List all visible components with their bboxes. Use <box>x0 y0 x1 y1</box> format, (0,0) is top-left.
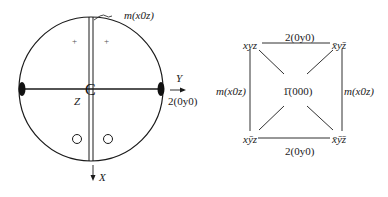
plus-marker: + <box>72 36 77 46</box>
left-edge-label: m(x0z) <box>216 86 246 97</box>
center-inversion-label: 1̄(000) <box>283 86 312 97</box>
mirror-plane-label: m(x0z) <box>124 10 154 21</box>
diag-br <box>307 106 333 130</box>
twofold-symbol-right <box>158 82 165 96</box>
right-edge-label: m(x0z) <box>344 86 374 97</box>
corner-bottom-right: x̄ȳz̄ <box>332 134 346 145</box>
center-symbol: C <box>85 81 96 98</box>
diag-bl <box>259 106 284 130</box>
diag-tl <box>259 50 284 74</box>
circle-marker <box>104 135 113 144</box>
z-axis-label: Z <box>74 96 80 107</box>
diag-tr <box>307 50 333 74</box>
bottom-edge-label: 2(0y0) <box>285 146 314 157</box>
corner-top-left: xyz <box>243 40 257 51</box>
x-arrowhead-icon <box>91 175 96 181</box>
y-twofold-label: 2(0y0) <box>168 96 197 107</box>
corner-top-right: x̄yz̄ <box>332 40 346 51</box>
top-edge-label: 2(0y0) <box>285 32 314 43</box>
x-axis-label: X <box>99 172 106 183</box>
y-arrowhead-icon <box>180 88 186 93</box>
twofold-symbol-left <box>19 82 26 96</box>
circle-marker <box>73 135 82 144</box>
plus-marker: + <box>104 36 109 46</box>
corner-bottom-left: xȳz <box>243 134 257 145</box>
y-axis-label: Y <box>176 73 182 84</box>
